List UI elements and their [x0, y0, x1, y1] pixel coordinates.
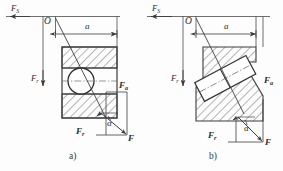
panel-a-axial-force-label: Fa [119, 81, 128, 90]
panel-a-resultant-force-label: F [128, 134, 134, 143]
panel-a-support-force-label: FS [11, 4, 19, 13]
panel-a-radial-force-label: Fr [31, 74, 39, 83]
figure-canvas: FS O a Fr Fa α Fr F a) FS O a Fr Fa α Fr… [0, 0, 283, 171]
panel-a-radial-component-label: Fr [76, 127, 84, 136]
bearing-force-diagram-svg [0, 0, 283, 171]
panel-b-axial-force-label: Fa [264, 76, 273, 85]
panel-a-angle-label: α [107, 119, 112, 128]
panel-b-resultant-force-label: F [265, 138, 271, 147]
panel-b-support-force-label: FS [152, 4, 160, 13]
panel-b-geometry [147, 17, 270, 143]
panel-b-dimension-label: a [224, 22, 229, 31]
panel-b-angle-label: α [244, 124, 249, 133]
panel-b-caption: b) [209, 152, 217, 162]
panel-a-caption: a) [69, 152, 76, 162]
panel-a-origin-label: O [44, 17, 51, 27]
panel-b-radial-component-label: Fr [208, 131, 216, 140]
panel-b-origin-label: O [185, 17, 192, 27]
panel-b-radial-force-label: Fr [171, 74, 179, 83]
panel-a-dimension-label: a [85, 22, 90, 31]
